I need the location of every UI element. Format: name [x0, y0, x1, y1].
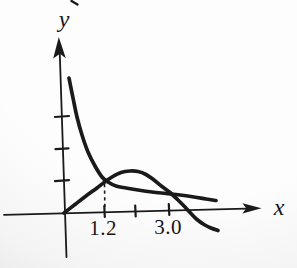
y-axis-label: y	[59, 6, 70, 33]
x-tick-label-1-2: 1.2	[89, 216, 117, 241]
decreasing-curve	[69, 78, 216, 201]
y-axis	[60, 54, 67, 257]
x-axis-label: x	[274, 194, 285, 221]
x-tick-label-3-0: 3.0	[154, 215, 182, 240]
hump-curve	[64, 171, 218, 231]
y-tick-1	[55, 180, 69, 181]
page-crop-artifact	[72, 1, 78, 5]
y-tick-2	[56, 148, 69, 149]
x-tick-3-0	[169, 204, 170, 215]
plot-canvas	[0, 0, 297, 268]
y-tick-3	[55, 116, 69, 117]
x-axis	[4, 209, 246, 215]
graph-figure: y x 1.2 3.0	[0, 0, 297, 268]
x-tick-mid	[135, 206, 136, 217]
